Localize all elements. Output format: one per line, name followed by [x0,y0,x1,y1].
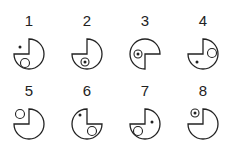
pacman-outline [188,39,218,69]
dot-icon [84,61,87,64]
dot-icon [194,112,197,115]
figure-6 [72,109,102,139]
pacman-outline [14,109,44,139]
dot-icon [137,53,140,56]
ring-icon [16,110,25,119]
dot-icon [151,121,154,124]
dot-icon [19,46,22,49]
figure-7 [130,109,160,139]
dot-icon [79,114,82,117]
dot-icon [196,61,199,64]
pacman-outline [72,109,102,139]
figure-4 [188,39,218,69]
ring-icon [134,127,143,136]
figure-3 [130,39,160,69]
figure-2 [72,39,102,69]
ring-icon [88,127,97,136]
pacman-outline [72,39,102,69]
figure-5 [14,109,44,139]
pacman-shapes [0,0,235,146]
figure-1 [14,39,44,69]
pacman-outline [188,109,218,139]
figure-8 [188,109,218,139]
ring-icon [208,49,217,58]
ring-icon [21,59,30,68]
